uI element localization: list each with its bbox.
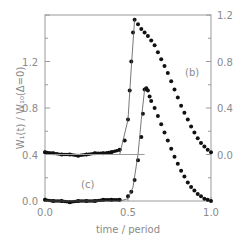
x-tick-label: 0.0: [37, 207, 53, 218]
data-point: [182, 111, 186, 115]
data-point: [139, 27, 143, 31]
data-point: [173, 155, 177, 159]
data-point: [186, 118, 190, 122]
data-point: [192, 130, 196, 134]
data-point: [166, 71, 170, 75]
data-point: [179, 104, 183, 108]
data-point: [163, 64, 167, 68]
data-point: [189, 125, 193, 129]
x-axis-title: time / period: [96, 224, 160, 235]
data-point: [186, 180, 190, 184]
data-point: [199, 194, 203, 198]
data-point: [209, 150, 213, 154]
x-tick-label: 0.5: [120, 207, 136, 218]
curve-label-b: (b): [185, 67, 199, 78]
y-tick-label-right: 1.2: [217, 10, 233, 21]
data-point: [176, 162, 180, 166]
theory-curve: [45, 20, 135, 155]
data-point: [179, 169, 183, 173]
data-point: [153, 43, 157, 47]
data-point: [196, 192, 200, 196]
data-point: [189, 185, 193, 189]
data-point: [199, 141, 203, 145]
x-tick-labels: 0.00.51.0: [37, 207, 219, 218]
data-point: [146, 34, 150, 38]
chart: 0.00.40.81.2 0.00.40.81.2 0.00.51.0 time…: [0, 0, 236, 243]
data-point: [196, 136, 200, 140]
data-point: [156, 114, 160, 118]
data-point: [169, 147, 173, 151]
data-point: [117, 148, 120, 151]
data-point: [209, 199, 213, 203]
data-point: [159, 57, 163, 61]
data-point: [131, 30, 135, 34]
y-tick-label-left: 0.4: [22, 150, 38, 161]
data-point: [153, 106, 157, 110]
y-tick-label-right: 0.0: [217, 150, 233, 161]
data-point: [156, 50, 160, 54]
y-tick-label-left: 0.0: [22, 196, 38, 207]
y-tick-label-right: 0.4: [217, 103, 233, 114]
data-point: [148, 94, 152, 98]
data-point: [149, 39, 153, 43]
curve-label-c: (c): [81, 179, 94, 190]
data-point: [176, 96, 180, 100]
data-point: [146, 89, 150, 93]
right-ticks: [206, 15, 211, 201]
data-point: [202, 144, 206, 148]
series-layer: [43, 18, 213, 205]
right-tick-labels: 0.00.40.81.2: [217, 10, 233, 161]
data-point: [182, 175, 186, 179]
data-point: [149, 99, 153, 103]
y-tick-label-right: 0.8: [217, 57, 233, 68]
data-point: [159, 122, 163, 126]
data-point: [163, 130, 167, 134]
theory-curve: [45, 89, 145, 201]
x-tick-label: 1.0: [203, 207, 219, 218]
plot-frame: [45, 15, 211, 201]
data-point: [166, 139, 170, 143]
data-point: [192, 189, 196, 193]
y-axis-title: W₁(t) / W₁₀(Δ=0): [15, 67, 26, 150]
data-point: [173, 87, 177, 91]
data-point: [136, 22, 140, 26]
left-ticks: [45, 15, 50, 201]
y-tick-label-left: 1.2: [22, 57, 38, 68]
data-point: [206, 148, 210, 152]
data-point: [143, 30, 147, 34]
data-point: [169, 79, 173, 83]
